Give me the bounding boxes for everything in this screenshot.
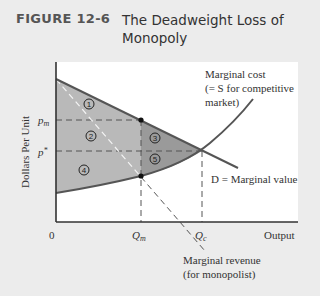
mr-label-1: Marginal revenue [183, 254, 261, 266]
deadweight-loss-diagram: 1 2 3 4 5 Dollars Per Unit pm p* 0 Qm Qc… [0, 0, 320, 296]
svg-text:3: 3 [153, 134, 158, 143]
y-axis-label: Dollars Per Unit [19, 116, 31, 188]
mc-label-2: (= S for competitive [205, 82, 294, 95]
mc-label-3: market) [205, 96, 240, 109]
svg-text:5: 5 [153, 155, 158, 164]
demand-label: D = Marginal value [211, 173, 297, 185]
mc-label-1: Marginal cost [205, 68, 266, 80]
tick-qm: Qm [132, 229, 146, 243]
monopoly-mc-point [138, 173, 143, 178]
mr-label-2: (for monopolist) [183, 268, 256, 281]
tick-qc: Qc [195, 229, 207, 243]
svg-text:4: 4 [82, 166, 87, 175]
origin-label: 0 [49, 229, 55, 241]
svg-text:1: 1 [87, 100, 92, 109]
tick-pm: pm [37, 114, 50, 128]
x-axis-label: Output [264, 229, 295, 241]
monopoly-price-point [138, 117, 143, 122]
svg-text:2: 2 [89, 132, 94, 141]
tick-pstar: p* [37, 146, 48, 158]
